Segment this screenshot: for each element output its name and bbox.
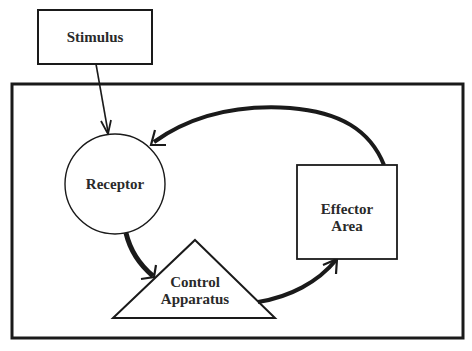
- effector-area-label: Effector Area: [297, 201, 397, 235]
- effector-label-line1: Effector: [297, 201, 397, 218]
- effector-label-line2: Area: [297, 218, 397, 235]
- receptor-to-control-arrow: [126, 233, 156, 279]
- control-label-line2: Apparatus: [140, 291, 250, 308]
- diagram-canvas: Stimulus Receptor Control Apparatus Effe…: [0, 0, 472, 351]
- control-to-effector-arrow: [258, 259, 337, 302]
- control-label-line1: Control: [140, 274, 250, 291]
- control-apparatus-label: Control Apparatus: [140, 274, 250, 308]
- effector-to-receptor-arrow: [151, 107, 384, 165]
- stimulus-to-receptor-arrow: [96, 64, 111, 134]
- receptor-label: Receptor: [65, 176, 165, 193]
- stimulus-label: Stimulus: [38, 29, 152, 46]
